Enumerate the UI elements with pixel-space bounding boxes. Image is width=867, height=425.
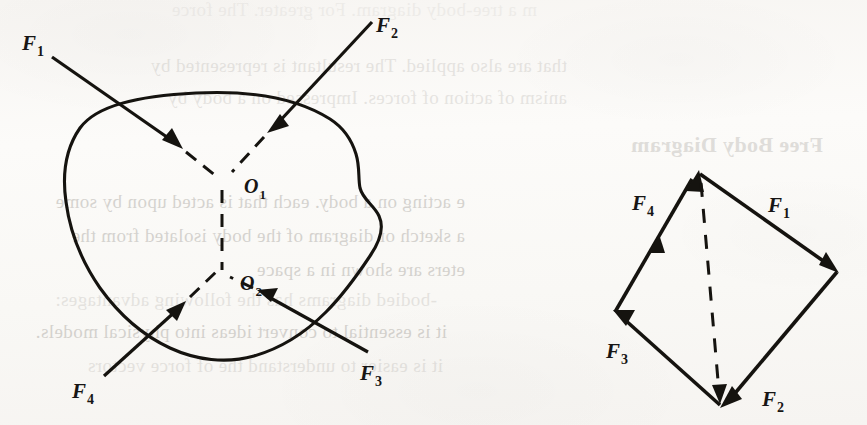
- dashed-extension-f1: [186, 152, 216, 176]
- arrowhead-f1: [162, 128, 183, 149]
- rigid-body-panel: F1 F2 F3 F4 O1 O2: [21, 13, 398, 407]
- label-f2-polygon: F2: [761, 387, 784, 415]
- force-arrow-f1: [52, 57, 216, 176]
- polygon-resultant-dashed: [701, 183, 727, 404]
- label-o1: O1: [244, 175, 266, 202]
- force-polygon-panel: F1 F2 F3 F4: [605, 170, 839, 415]
- arrowhead-poly-f1: [819, 252, 839, 273]
- label-f2-left: F2: [375, 13, 398, 41]
- diagram-ink-layer: F1 F2 F3 F4 O1 O2: [0, 0, 867, 425]
- label-f4-left: F4: [71, 379, 94, 407]
- polygon-vector-f1: [700, 174, 839, 273]
- figure-page: m a tree-body diagram. For greater. The …: [0, 0, 867, 425]
- dashed-extension-f2: [232, 137, 264, 172]
- label-f4-polygon: F4: [631, 191, 654, 219]
- label-o2: O2: [240, 272, 262, 299]
- label-f3-polygon: F3: [605, 339, 628, 367]
- label-f1-polygon: F1: [767, 193, 790, 221]
- polygon-vector-f2: [720, 272, 837, 408]
- force-arrow-f2: [232, 22, 372, 172]
- polygon-vector-f4: [615, 170, 704, 312]
- dashed-extension-f4: [190, 272, 216, 297]
- label-f1-left: F1: [21, 31, 44, 59]
- polygon-vector-f3: [613, 310, 720, 405]
- label-f3-left: F3: [359, 361, 382, 389]
- force-arrow-f4: [104, 272, 216, 376]
